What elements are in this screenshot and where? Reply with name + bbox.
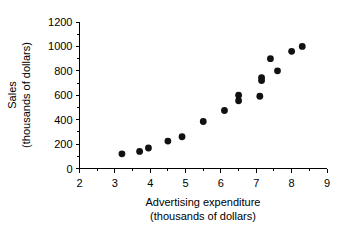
y-tick-label: 1200 (48, 16, 72, 28)
data-point (274, 67, 281, 74)
axes-lines (79, 22, 327, 169)
x-tick-label: 4 (147, 177, 153, 189)
y-tick-label: 1000 (48, 40, 72, 52)
data-point (299, 43, 306, 50)
data-point (221, 107, 228, 114)
scatter-chart-figure: 020040060080010001200 23456789 Advertisi… (0, 0, 346, 232)
data-point (256, 93, 263, 100)
data-point (267, 55, 274, 62)
y-tick-label: 200 (54, 138, 72, 150)
data-point (164, 138, 171, 145)
x-axis-title-line2: (thousands of dollars) (150, 210, 256, 222)
data-point (119, 150, 126, 157)
data-point (200, 118, 207, 125)
y-tick-label: 600 (54, 89, 72, 101)
y-tick-label: 0 (66, 163, 72, 175)
data-point (136, 148, 143, 155)
x-tick-label: 6 (218, 177, 224, 189)
x-tick-label: 8 (289, 177, 295, 189)
x-axis-ticks (80, 169, 328, 173)
data-point (258, 74, 265, 81)
chart-svg: 020040060080010001200 23456789 Advertisi… (0, 0, 346, 232)
data-point (179, 133, 186, 140)
data-points-group (119, 43, 306, 157)
y-axis-tick-labels: 020040060080010001200 (48, 16, 72, 175)
x-tick-label: 5 (183, 177, 189, 189)
x-axis-title-line1: Advertising expenditure (146, 196, 261, 208)
y-axis-title-line1: Sales (6, 81, 18, 109)
y-axis-ticks (76, 22, 80, 169)
x-tick-label: 9 (324, 177, 330, 189)
x-tick-label: 2 (76, 177, 82, 189)
data-point (288, 48, 295, 55)
y-tick-label: 400 (54, 114, 72, 126)
x-axis-tick-labels: 23456789 (76, 177, 330, 189)
data-point (145, 145, 152, 152)
data-point (235, 92, 242, 99)
x-tick-label: 3 (112, 177, 118, 189)
x-tick-label: 7 (253, 177, 259, 189)
y-axis-title-line2: (thousands of dollars) (20, 42, 32, 148)
y-tick-label: 800 (54, 65, 72, 77)
